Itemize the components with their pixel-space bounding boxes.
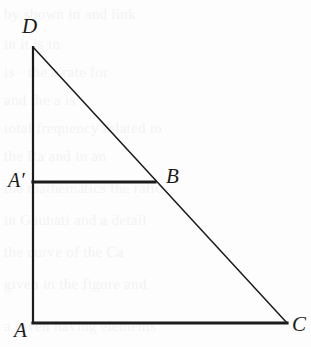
- vertex-label-a-prime: A′: [8, 170, 25, 190]
- segment-DC-hypotenuse: [33, 47, 287, 323]
- figure-canvas: by shown in and link in it is in is · th…: [0, 0, 311, 347]
- vertex-label-c: C: [292, 314, 306, 335]
- triangle-figure: [0, 0, 311, 347]
- vertex-label-d: D: [22, 16, 37, 37]
- vertex-label-a: A: [14, 320, 27, 341]
- vertex-label-b: B: [166, 166, 179, 187]
